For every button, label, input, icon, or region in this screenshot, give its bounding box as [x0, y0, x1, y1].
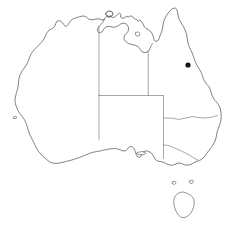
flinders-island — [190, 180, 194, 184]
melville-island — [106, 11, 112, 16]
east-coast-point-marker[interactable] — [185, 62, 190, 67]
map-canvas — [0, 0, 241, 226]
rottnest-island — [14, 116, 17, 118]
groote-eylandt — [136, 32, 140, 36]
mainland-coastline — [15, 8, 221, 165]
king-island — [172, 181, 176, 184]
australia-map-figure — [0, 0, 241, 226]
kangaroo-island — [137, 152, 146, 155]
tasmania — [174, 192, 194, 218]
